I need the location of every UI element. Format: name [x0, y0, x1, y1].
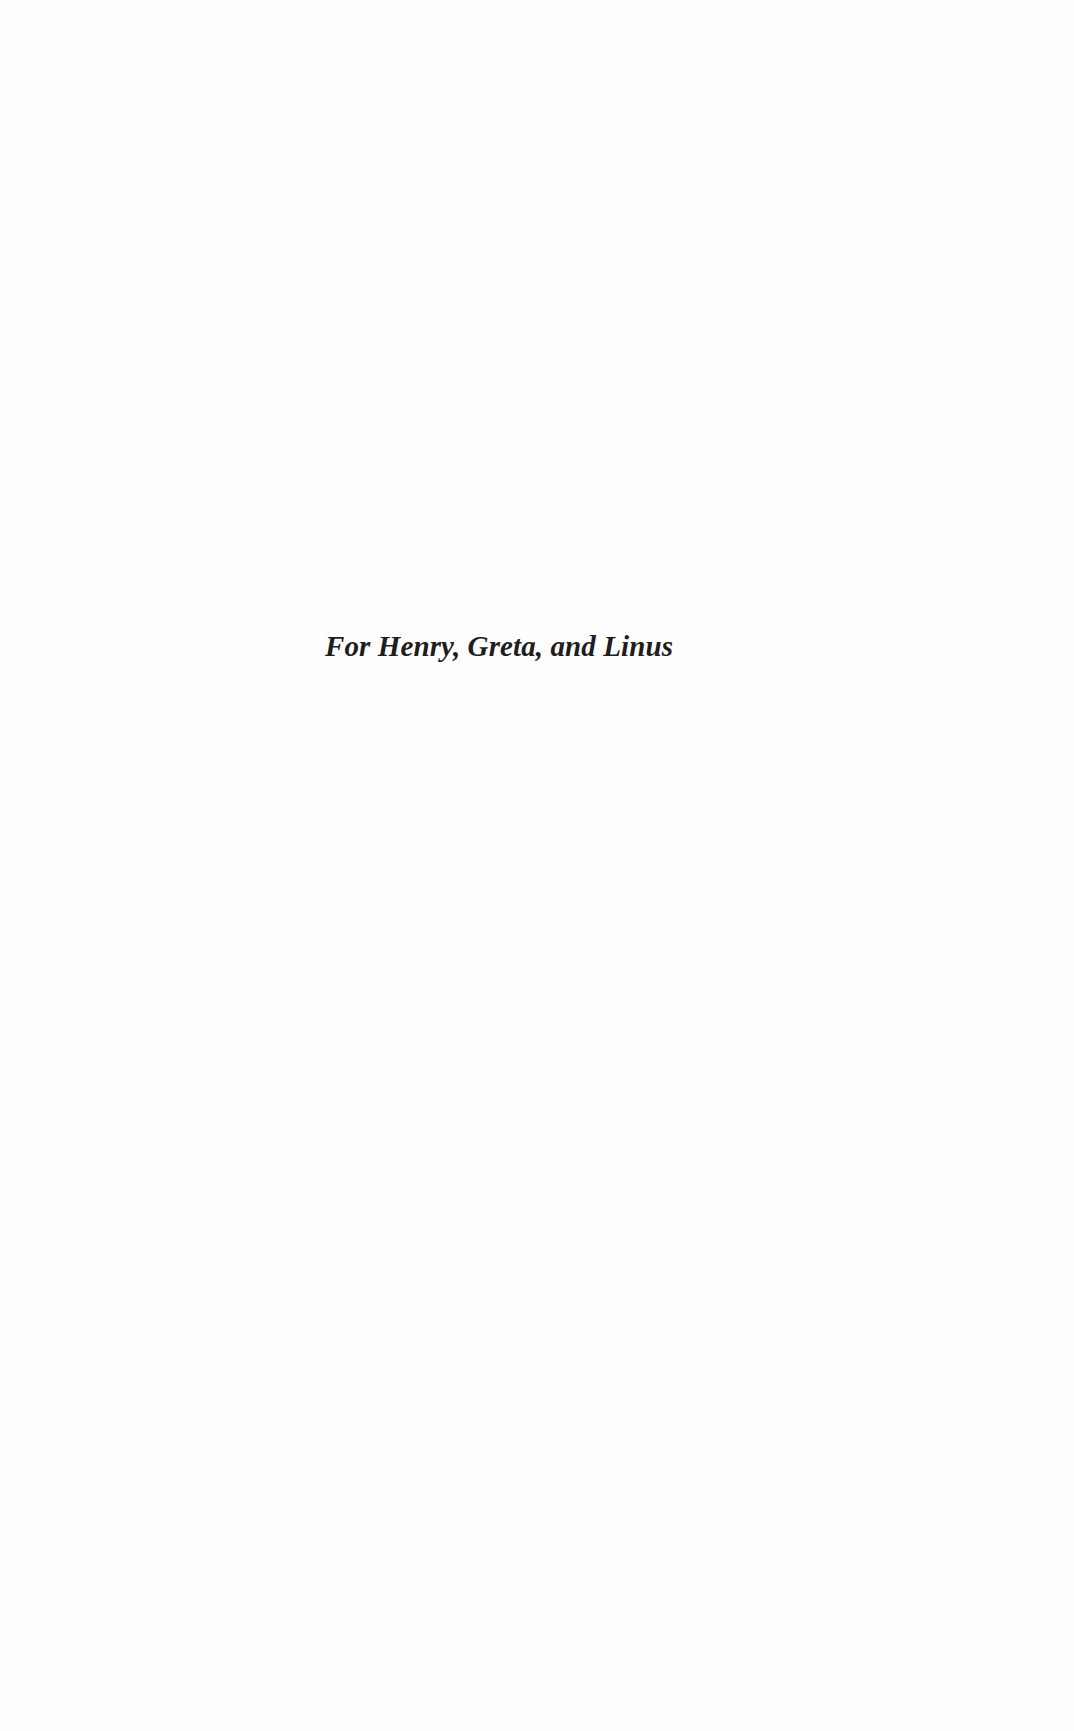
dedication-text: For Henry, Greta, and Linus — [325, 628, 673, 664]
book-page: For Henry, Greta, and Linus — [0, 0, 1074, 1731]
